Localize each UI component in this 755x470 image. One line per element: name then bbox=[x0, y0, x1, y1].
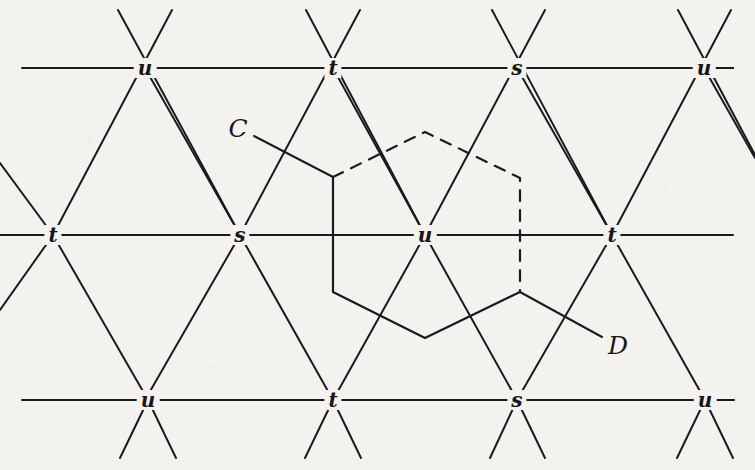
label-c-leader-line bbox=[254, 136, 333, 177]
diag-a-8 bbox=[612, 235, 705, 400]
hexagon-dashed-boundary bbox=[333, 132, 520, 292]
diag-a-9 bbox=[53, 235, 148, 400]
diag-a-7 bbox=[425, 235, 517, 400]
lattice-artwork bbox=[0, 0, 755, 470]
diag-b-2 bbox=[240, 10, 360, 235]
node-top-s: s bbox=[507, 58, 526, 78]
node-mid-t-1: t bbox=[44, 225, 61, 245]
lattice-figure: utsutsututsuCD bbox=[0, 0, 755, 470]
diag-a-4 bbox=[678, 10, 755, 155]
node-bot-s: s bbox=[507, 390, 526, 410]
diag-b-5 bbox=[145, 68, 240, 235]
diag-b-1 bbox=[53, 10, 172, 235]
node-bot-u-1: u bbox=[137, 390, 160, 410]
diag-b-9 bbox=[145, 235, 240, 400]
hexagon-solid-boundary bbox=[333, 177, 520, 338]
diag-b-3 bbox=[425, 10, 545, 235]
node-mid-t-2: t bbox=[603, 225, 620, 245]
diag-b-12 bbox=[0, 235, 53, 310]
node-top-u-2: u bbox=[693, 58, 716, 78]
diag-a-3 bbox=[492, 10, 612, 235]
node-top-u-1: u bbox=[134, 58, 157, 78]
node-top-t: t bbox=[324, 58, 341, 78]
diag-a-6 bbox=[240, 235, 333, 400]
label-d-leader-line bbox=[520, 292, 602, 337]
diag-b-6 bbox=[333, 68, 425, 235]
diag-b-4 bbox=[612, 10, 731, 235]
node-mid-s: s bbox=[230, 225, 249, 245]
node-bot-t: t bbox=[324, 390, 341, 410]
label-c: C bbox=[228, 116, 247, 141]
node-mid-u: u bbox=[414, 225, 437, 245]
diag-b-8 bbox=[704, 68, 755, 158]
diag-b-10 bbox=[333, 235, 425, 400]
node-bot-u-2: u bbox=[694, 390, 717, 410]
diag-b-7 bbox=[517, 68, 612, 235]
label-d: D bbox=[608, 333, 628, 358]
